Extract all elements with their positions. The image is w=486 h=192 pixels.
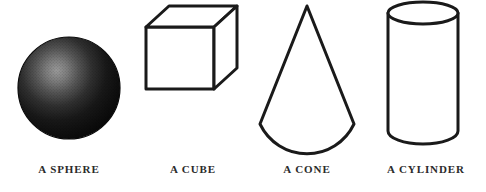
shape-label-cylinder: A CYLINDER <box>366 162 486 176</box>
cone-icon <box>248 0 366 160</box>
cylinder-icon <box>366 0 486 160</box>
geometric-solids-figure: A SPHERE A CUBE A CONE A CYLINDER <box>0 0 486 192</box>
cube-icon <box>138 0 248 160</box>
shape-label-cone: A CONE <box>248 162 366 176</box>
shape-cell-cube: A CUBE <box>138 0 248 192</box>
shape-cell-cone: A CONE <box>248 0 366 192</box>
shape-cell-sphere: A SPHERE <box>0 0 138 192</box>
shape-label-cube: A CUBE <box>138 162 248 176</box>
sphere-icon <box>0 0 138 160</box>
shape-cell-cylinder: A CYLINDER <box>366 0 486 192</box>
shape-label-sphere: A SPHERE <box>0 162 138 176</box>
